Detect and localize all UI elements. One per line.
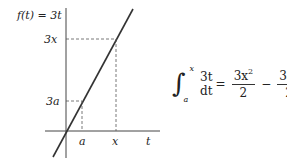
integral-formula: ∫ x a 3t dt = 3x2 2 − 3a2 2 — [172, 64, 287, 104]
integrand: 3t dt — [200, 70, 213, 98]
upper-limit: x — [190, 64, 195, 73]
minus-sign: − — [261, 77, 271, 91]
equals-sign: = — [216, 77, 226, 91]
term2-numerator: 3a — [279, 69, 287, 83]
y-tick-3a: 3a — [46, 95, 60, 108]
term1-exponent: 2 — [248, 67, 253, 76]
x-tick-a: a — [79, 135, 86, 148]
integral-sign: ∫ — [172, 70, 186, 96]
function-label: f(t) = 3t — [16, 9, 62, 22]
fraction-term1: 3x2 2 — [232, 69, 256, 100]
x-axis-label: t — [146, 135, 151, 148]
term1-numerator: 3x — [234, 69, 248, 83]
function-line — [53, 9, 133, 157]
x-tick-x: x — [112, 135, 119, 148]
y-tick-3x: 3x — [44, 33, 58, 46]
term2-denominator: 2 — [285, 85, 287, 100]
term1-denominator: 2 — [240, 85, 248, 100]
fraction-term2: 3a2 2 — [277, 69, 287, 100]
